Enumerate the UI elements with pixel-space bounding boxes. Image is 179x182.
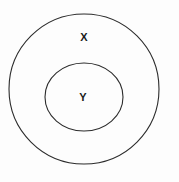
set-label-y: Y <box>79 91 87 103</box>
nested-set-diagram: X Y <box>0 0 179 182</box>
set-label-x: X <box>80 31 88 43</box>
diagram-background <box>0 0 179 182</box>
